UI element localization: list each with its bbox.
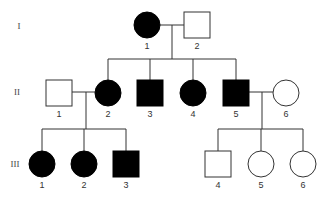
generation-label-ii: II: [14, 87, 20, 97]
affected-female-symbol: [134, 12, 160, 38]
individual-iii-6: 6: [290, 151, 316, 190]
individual-ii-4: 4: [180, 80, 206, 119]
individual-iii-1: 1: [29, 151, 55, 190]
pedigree-chart: I II III 1 2 1: [0, 0, 330, 197]
individual-ii-6: 6: [273, 80, 299, 119]
individual-label: 1: [144, 41, 149, 51]
unaffected-female-symbol: [273, 80, 299, 106]
individual-ii-5: 5: [223, 80, 249, 119]
individual-i-2: 2: [184, 12, 210, 51]
affected-male-symbol: [223, 80, 249, 106]
unaffected-female-symbol: [290, 151, 316, 177]
affected-female-symbol: [71, 151, 97, 177]
connectors-gen-i: [108, 25, 236, 80]
individual-label: 1: [56, 109, 61, 119]
generation-label-i: I: [18, 21, 21, 31]
affected-female-symbol: [95, 80, 121, 106]
individual-label: 2: [194, 41, 199, 51]
individual-label: 2: [81, 180, 86, 190]
individual-iii-2: 2: [71, 151, 97, 190]
connectors-gen-ii: [42, 92, 303, 151]
individual-i-1: 1: [134, 12, 160, 51]
individual-iii-3: 3: [113, 151, 139, 190]
individual-label: 4: [215, 180, 220, 190]
unaffected-female-symbol: [248, 151, 274, 177]
unaffected-male-symbol: [184, 12, 210, 38]
unaffected-male-symbol: [46, 80, 72, 106]
individual-label: 5: [258, 180, 263, 190]
individual-label: 6: [300, 180, 305, 190]
individual-label: 2: [105, 109, 110, 119]
unaffected-male-symbol: [205, 151, 231, 177]
individual-label: 5: [233, 109, 238, 119]
affected-female-symbol: [29, 151, 55, 177]
individual-iii-4: 4: [205, 151, 231, 190]
individual-ii-1: 1: [46, 80, 72, 119]
individual-label: 3: [147, 109, 152, 119]
individual-label: 6: [283, 109, 288, 119]
individual-ii-2: 2: [95, 80, 121, 119]
individual-label: 4: [190, 109, 195, 119]
generation-label-iii: III: [11, 159, 20, 169]
individual-ii-3: 3: [137, 80, 163, 119]
individual-iii-5: 5: [248, 151, 274, 190]
affected-female-symbol: [180, 80, 206, 106]
affected-male-symbol: [113, 151, 139, 177]
individual-label: 1: [39, 180, 44, 190]
individual-label: 3: [123, 180, 128, 190]
affected-male-symbol: [137, 80, 163, 106]
